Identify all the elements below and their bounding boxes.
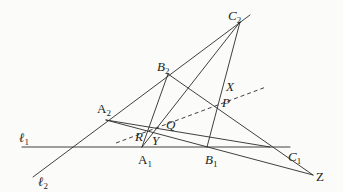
label-r: R xyxy=(135,130,143,143)
label-q: Q xyxy=(166,118,175,131)
label-y: Y xyxy=(152,134,159,147)
label-l2: ℓ2 xyxy=(38,175,48,191)
label-b2: B2 xyxy=(157,60,169,76)
label-p: P xyxy=(222,96,230,109)
pappus-diagram: C2 B2 A2 X P Q R Y ℓ1 ℓ2 A1 B1 C1 Z xyxy=(0,0,343,192)
line-c2-b1 xyxy=(207,22,240,147)
label-b1: B1 xyxy=(205,153,217,169)
label-l1: ℓ1 xyxy=(19,131,29,147)
label-z: Z xyxy=(316,170,324,183)
label-c2: C2 xyxy=(228,9,241,25)
label-a1: A1 xyxy=(138,153,152,169)
line-a2-c1 xyxy=(106,120,270,147)
label-x: X xyxy=(226,80,234,93)
label-a2: A2 xyxy=(97,102,111,118)
label-c1: C1 xyxy=(288,150,301,166)
